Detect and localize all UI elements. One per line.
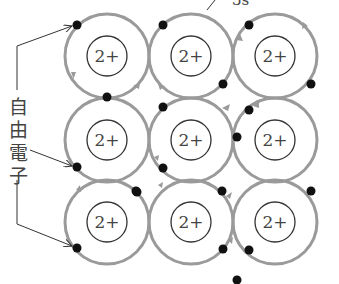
leader-arrow-top [17, 26, 72, 46]
ion-charge-label: 2+ [255, 210, 295, 234]
electron-dot [218, 187, 227, 196]
electron-dot [219, 245, 228, 254]
orbital-label-3s: 3s [232, 0, 249, 9]
ion-charge-label: 2+ [171, 210, 211, 234]
free-electron-char: 子 [6, 165, 30, 188]
electron-dot [159, 164, 168, 173]
electron-dot [245, 106, 254, 115]
electron-dot [73, 244, 82, 253]
electron-dot [73, 21, 82, 30]
electron-dot [245, 246, 254, 255]
ion-charge-label: 2+ [171, 128, 211, 152]
ion-charge-label: 2+ [87, 210, 127, 234]
free-electron-char: 自 [6, 96, 30, 119]
electron-dot [159, 21, 168, 30]
ion-charge-label: 2+ [255, 128, 295, 152]
electron-dot [73, 163, 82, 172]
electron-dot [233, 276, 242, 284]
ion-charge-label: 2+ [171, 44, 211, 68]
electron-dot [159, 103, 168, 112]
electron-dot [133, 188, 142, 197]
free-electron-char: 電 [6, 142, 30, 165]
electron-dot [307, 80, 316, 89]
orbit-arrow-icon [158, 182, 163, 188]
electron-dot [219, 80, 228, 89]
electron-dot [307, 187, 316, 196]
free-electron-char: 由 [6, 119, 30, 142]
metallic-bond-diagram: 3s 自 由 電 子 2+2+2+2+2+2+2+2+2+ [0, 0, 339, 284]
electron-dot [245, 21, 254, 30]
orbit-arrow-icon [222, 104, 230, 111]
leader-arrow-bottom [17, 224, 72, 246]
free-electron-label: 自 由 電 子 [6, 96, 30, 188]
electron-dot [233, 133, 242, 142]
ion-charge-label: 2+ [87, 128, 127, 152]
ion-charge-label: 2+ [255, 44, 295, 68]
leader-line-3s [207, 0, 215, 10]
ion-charge-label: 2+ [87, 44, 127, 68]
electron-dot [103, 93, 112, 102]
